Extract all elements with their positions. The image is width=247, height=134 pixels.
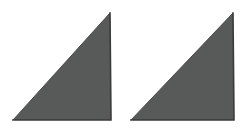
image-canvas [0, 0, 247, 134]
triangles-figure [0, 0, 247, 134]
